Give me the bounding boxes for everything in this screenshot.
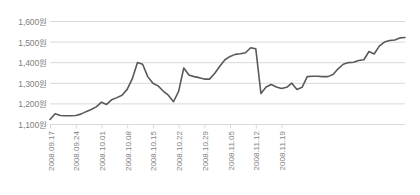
price-line-chart: 1,100원1,200원1,300원1,400원1,500원1,600원 200… (0, 0, 420, 195)
x-axis-tick-label: 2008.09.24 (72, 131, 81, 171)
x-axis-tick-label: 2008.11.05 (226, 131, 235, 170)
x-axis-tick-label: 2008.11.12 (252, 131, 261, 170)
x-axis-tick-label: 2008.10.22 (175, 131, 184, 171)
x-axis-tick-label: 2008.10.15 (149, 131, 158, 171)
x-axis: 2008.09.172008.09.242008.10.012008.10.08… (0, 0, 420, 195)
x-axis-tick-label: 2008.11.19 (278, 131, 287, 170)
x-axis-tick-label: 2008.10.01 (97, 131, 106, 171)
x-axis-tick-label: 2008.10.29 (200, 131, 209, 171)
x-axis-tick-label: 2008.10.08 (123, 131, 132, 171)
x-axis-tick-label: 2008.09.17 (46, 131, 55, 171)
